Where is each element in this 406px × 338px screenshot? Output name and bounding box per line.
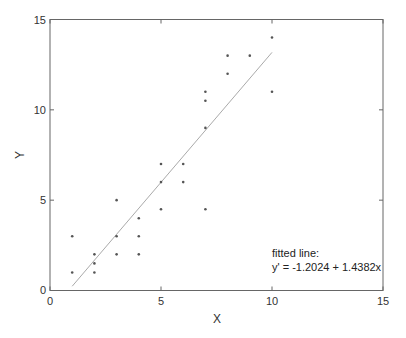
fit-annotation-title: fitted line: xyxy=(272,247,319,259)
y-tick-label: 15 xyxy=(34,14,46,26)
data-points xyxy=(71,36,273,273)
data-point xyxy=(115,253,118,256)
y-axis-label: Y xyxy=(13,151,27,159)
data-point xyxy=(93,271,96,274)
data-point xyxy=(182,181,185,184)
data-point xyxy=(138,253,141,256)
x-tick-label: 15 xyxy=(377,295,389,307)
axis-ticks xyxy=(50,20,383,291)
data-point xyxy=(271,36,274,39)
y-tick-label: 0 xyxy=(40,284,46,296)
x-tick-label: 0 xyxy=(47,295,53,307)
x-tick-label: 10 xyxy=(266,295,278,307)
x-axis-label: X xyxy=(213,312,221,326)
data-point xyxy=(271,90,274,93)
fitted-line xyxy=(72,52,272,286)
data-point xyxy=(204,208,207,211)
data-point xyxy=(249,54,252,57)
data-point xyxy=(160,181,163,184)
y-tick-label: 5 xyxy=(40,194,46,206)
x-tick-label: 5 xyxy=(158,295,164,307)
data-point xyxy=(138,235,141,238)
data-point xyxy=(93,262,96,265)
data-point xyxy=(138,217,141,220)
data-point xyxy=(115,199,118,202)
data-point xyxy=(71,235,74,238)
data-point xyxy=(204,100,207,103)
data-point xyxy=(182,163,185,166)
scatter-chart: 0 5 10 15 0 5 10 15 X Y fitted line: y' … xyxy=(0,0,406,338)
data-point xyxy=(204,127,207,130)
data-point xyxy=(93,253,96,256)
data-point xyxy=(115,235,118,238)
y-tick-label: 10 xyxy=(34,104,46,116)
data-point xyxy=(226,72,229,75)
data-point xyxy=(204,90,207,93)
data-point xyxy=(71,271,74,274)
fit-annotation-equation: y' = -1.2024 + 1.4382x xyxy=(272,261,382,273)
data-point xyxy=(226,54,229,57)
data-point xyxy=(160,208,163,211)
plot-frame xyxy=(50,20,383,291)
data-point xyxy=(160,163,163,166)
